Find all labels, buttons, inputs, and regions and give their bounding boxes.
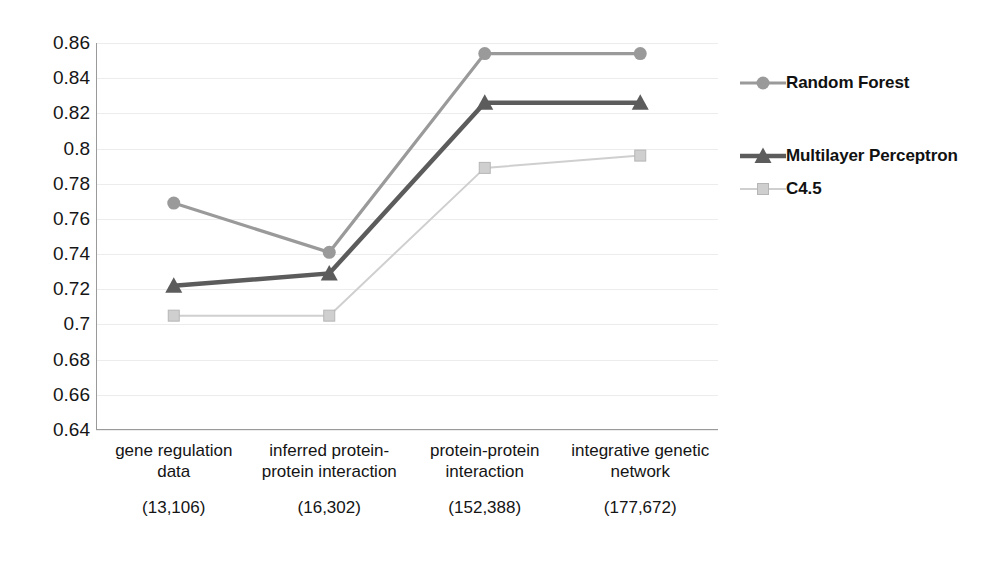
y-axis-tick-label: 0.78	[16, 174, 90, 193]
legend-marker-triangle-icon	[740, 146, 786, 166]
x-axis-category-count: (152,388)	[407, 497, 563, 518]
gridline	[96, 430, 718, 431]
x-axis-category-name: protein-protein interaction	[407, 440, 563, 482]
legend-item[interactable]: Random Forest	[740, 72, 980, 93]
data-point-marker	[323, 246, 336, 259]
data-point-marker	[635, 150, 646, 161]
y-axis-tick-label: 0.86	[16, 33, 90, 52]
data-point-marker	[757, 77, 770, 90]
y-axis-tick-label: 0.66	[16, 385, 90, 404]
y-axis-tick-label: 0.8	[16, 139, 90, 158]
y-axis-tick-label: 0.68	[16, 350, 90, 369]
data-point-marker	[168, 310, 179, 321]
x-axis-category: inferred protein-protein interaction(16,…	[252, 440, 408, 550]
data-point-marker	[324, 310, 335, 321]
y-axis-tick-label: 0.64	[16, 420, 90, 439]
x-axis-category-name: integrative genetic network	[563, 440, 719, 482]
y-axis-tick-label: 0.76	[16, 209, 90, 228]
y-axis-tick-label: 0.7	[16, 314, 90, 333]
y-axis-tick-label: 0.72	[16, 279, 90, 298]
series-line	[174, 54, 641, 253]
data-point-marker	[167, 197, 180, 210]
x-axis-category-name: gene regulation data	[96, 440, 252, 482]
y-axis: 0.860.840.820.80.780.760.740.720.70.680.…	[8, 0, 90, 584]
data-point-marker	[758, 184, 769, 195]
data-point-marker	[634, 47, 647, 60]
y-axis-tick-label: 0.74	[16, 244, 90, 263]
legend-item-label: C4.5	[786, 178, 822, 199]
legend-item[interactable]: C4.5	[740, 178, 980, 199]
legend-item-label: Random Forest	[786, 72, 909, 93]
legend: Random ForestMultilayer PerceptronC4.5	[740, 72, 980, 229]
chart-figure: 0.860.840.820.80.780.760.740.720.70.680.…	[0, 0, 985, 584]
x-axis-category-count: (177,672)	[563, 497, 719, 518]
x-axis-category: integrative genetic network(177,672)	[563, 440, 719, 550]
x-axis-category: protein-protein interaction(152,388)	[407, 440, 563, 550]
legend-marker-circle-icon	[740, 73, 786, 93]
data-point-marker	[479, 162, 490, 173]
x-axis-category: gene regulation data(13,106)	[96, 440, 252, 550]
x-axis-category-count: (16,302)	[252, 497, 408, 518]
x-axis-category-name: inferred protein-protein interaction	[252, 440, 408, 482]
plot-area	[96, 43, 718, 430]
x-axis-category-count: (13,106)	[96, 497, 252, 518]
legend-item-label: Multilayer Perceptron	[786, 145, 958, 166]
legend-marker-square-icon	[740, 179, 786, 199]
data-point-marker	[478, 47, 491, 60]
legend-item[interactable]: Multilayer Perceptron	[740, 145, 980, 166]
series-layer	[96, 43, 718, 430]
series-line	[174, 103, 641, 286]
x-axis: gene regulation data(13,106)inferred pro…	[96, 440, 718, 550]
y-axis-tick-label: 0.84	[16, 68, 90, 87]
series-line	[174, 156, 641, 316]
y-axis-tick-label: 0.82	[16, 103, 90, 122]
